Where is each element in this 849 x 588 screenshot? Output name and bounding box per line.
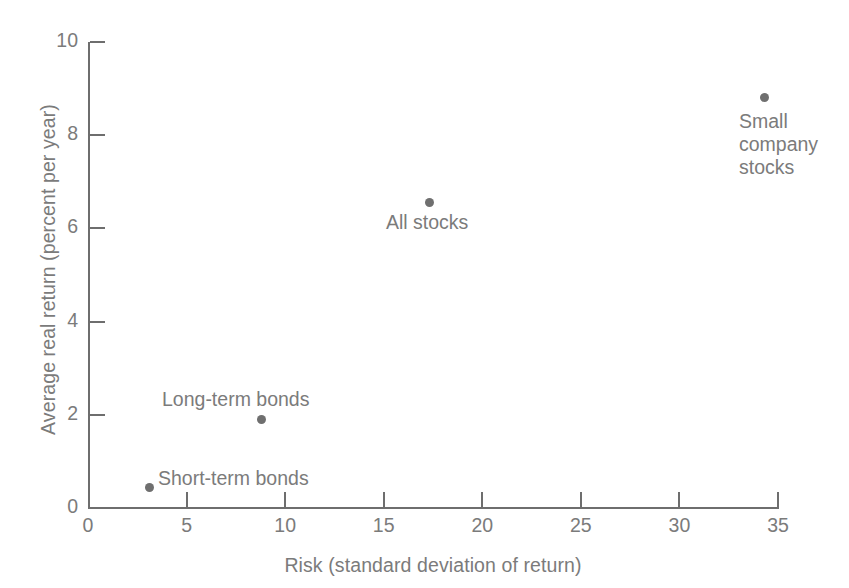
x-tick-label: 15	[361, 516, 407, 536]
data-point	[760, 93, 769, 102]
y-axis-line	[88, 42, 90, 509]
y-tick-label: 10	[32, 31, 78, 51]
y-tick-mark	[90, 321, 105, 323]
x-tick-mark	[383, 492, 385, 507]
x-tick-label: 10	[262, 516, 308, 536]
x-tick-label: 35	[755, 516, 801, 536]
y-tick-mark	[90, 507, 105, 509]
y-tick-label: 8	[32, 124, 78, 144]
y-tick-mark	[90, 414, 105, 416]
y-tick-mark	[90, 227, 105, 229]
scatter-chart: Average real return (percent per year) R…	[0, 0, 849, 588]
data-point	[257, 415, 266, 424]
x-tick-mark	[481, 492, 483, 507]
x-tick-mark	[678, 492, 680, 507]
point-label-small-company-stocks: Small company stocks	[739, 110, 818, 179]
x-tick-label: 0	[65, 516, 111, 536]
y-tick-mark	[90, 41, 105, 43]
x-tick-label: 20	[459, 516, 505, 536]
y-tick-label: 0	[32, 497, 78, 517]
x-tick-label: 5	[164, 516, 210, 536]
x-tick-mark	[580, 492, 582, 507]
y-tick-label: 4	[32, 311, 78, 331]
point-label-long-term-bonds: Long-term bonds	[162, 388, 309, 411]
point-label-all-stocks: All stocks	[386, 211, 468, 234]
x-axis-title: Risk (standard deviation of return)	[88, 554, 778, 577]
x-tick-label: 25	[558, 516, 604, 536]
x-tick-label: 30	[656, 516, 702, 536]
data-point	[145, 483, 154, 492]
y-tick-label: 6	[32, 217, 78, 237]
x-tick-mark	[186, 492, 188, 507]
x-tick-mark	[777, 492, 779, 507]
y-tick-mark	[90, 134, 105, 136]
data-point	[425, 198, 434, 207]
y-tick-label: 2	[32, 404, 78, 424]
point-label-short-term-bonds: Short-term bonds	[158, 467, 309, 490]
x-axis-line	[88, 507, 779, 509]
x-tick-mark	[284, 492, 286, 507]
